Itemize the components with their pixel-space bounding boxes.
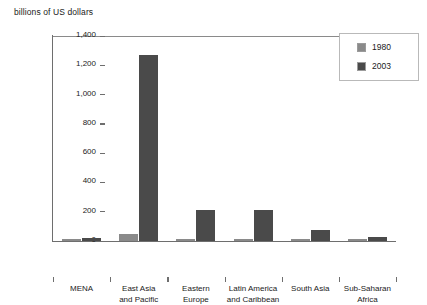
x-axis-label-5: South Asia bbox=[282, 284, 339, 295]
y-axis-tick-mark bbox=[100, 153, 105, 154]
y-axis-tick-label: 1,400 bbox=[76, 30, 96, 39]
y-axis-tick-label: 1,000 bbox=[76, 89, 96, 98]
y-axis-tick-mark bbox=[100, 182, 105, 183]
y-axis-tick-label: 600 bbox=[83, 147, 96, 156]
bar-2003-6 bbox=[368, 237, 387, 241]
bar-2003-4 bbox=[254, 210, 273, 241]
y-axis-tick-label: 1,200 bbox=[76, 59, 96, 68]
x-axis-label-4: Latin Americaand Caribbean bbox=[225, 284, 282, 305]
y-axis-tick-mark bbox=[100, 211, 105, 212]
bar-1980-3 bbox=[176, 239, 195, 241]
bar-1980-2 bbox=[119, 234, 138, 241]
y-axis-tick-mark bbox=[100, 36, 105, 37]
x-axis-label-3: EasternEurope bbox=[167, 284, 224, 305]
bar-1980-5 bbox=[291, 239, 310, 241]
x-axis-label-2: East Asiaand Pacific bbox=[110, 284, 167, 305]
bar-2003-1 bbox=[82, 238, 101, 241]
y-axis-tick-label: 400 bbox=[83, 176, 96, 185]
chart-legend: 1980 2003 bbox=[339, 33, 419, 81]
y-axis-tick-mark bbox=[100, 123, 105, 124]
x-axis-tick-mark bbox=[110, 277, 111, 282]
x-axis-label-1: MENA bbox=[53, 284, 110, 295]
bar-1980-6 bbox=[348, 239, 367, 241]
bar-1980-4 bbox=[234, 239, 253, 241]
x-axis-tick-mark bbox=[167, 277, 168, 282]
x-axis-tick-mark bbox=[339, 277, 340, 282]
bar-2003-5 bbox=[311, 230, 330, 241]
x-axis-tick-mark bbox=[225, 277, 226, 282]
bar-1980-1 bbox=[62, 239, 81, 241]
legend-swatch-2003 bbox=[357, 62, 366, 71]
legend-item-2003: 2003 bbox=[357, 61, 391, 71]
x-axis-tick-mark bbox=[282, 277, 283, 282]
legend-label-1980: 1980 bbox=[372, 42, 391, 52]
bar-2003-3 bbox=[196, 210, 215, 241]
x-axis-label-6: Sub-SaharanAfrica bbox=[339, 284, 396, 305]
y-axis-tick-mark bbox=[100, 65, 105, 66]
y-axis-tick-label: 200 bbox=[83, 206, 96, 215]
x-axis-tick-mark bbox=[53, 277, 54, 282]
y-axis-tick-mark bbox=[100, 94, 105, 95]
legend-item-1980: 1980 bbox=[357, 42, 391, 52]
legend-swatch-1980 bbox=[357, 43, 366, 52]
bar-2003-2 bbox=[139, 55, 158, 241]
y-axis-title: billions of US dollars bbox=[14, 7, 93, 17]
x-axis-tick-mark bbox=[396, 277, 397, 282]
legend-label-2003: 2003 bbox=[372, 61, 391, 71]
y-axis-tick-label: 800 bbox=[83, 118, 96, 127]
